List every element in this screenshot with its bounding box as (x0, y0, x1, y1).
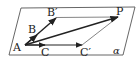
label-plane-alpha: α (113, 45, 120, 56)
label-c-prime: C′ (80, 46, 91, 59)
vector-parallelogram-diagram: A B B′ C C′ P α (0, 0, 139, 62)
label-a: A (12, 41, 22, 54)
diagram-canvas: A B B′ C C′ P α (0, 0, 139, 62)
label-b: B (28, 23, 36, 36)
label-c: C (41, 46, 49, 59)
segment-bprime-p (56, 17, 118, 18)
vector-a-p (25, 17, 118, 45)
label-b-prime: B′ (47, 6, 58, 19)
segment-cprime-p (82, 17, 118, 45)
label-p: P (116, 5, 124, 18)
